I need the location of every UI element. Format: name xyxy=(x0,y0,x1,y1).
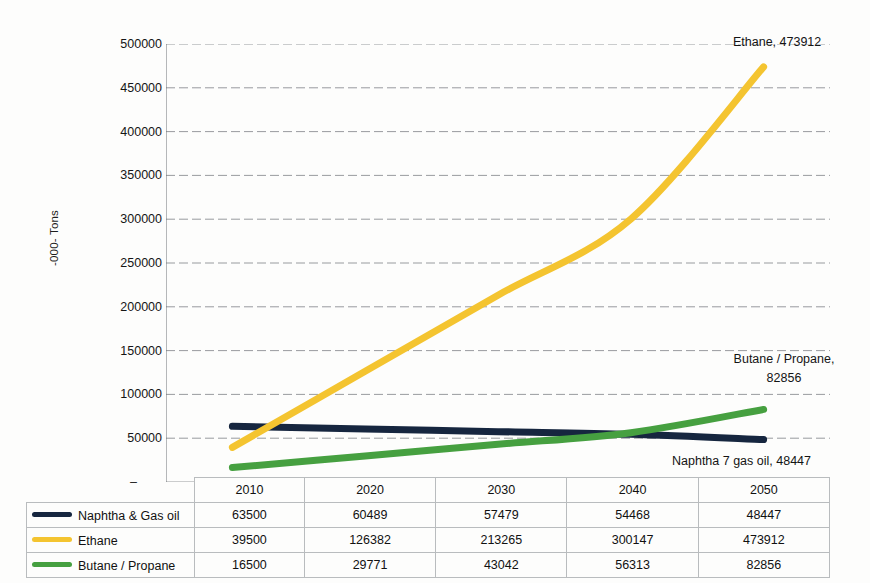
data-table-body: 20102020203020402050Naphtha & Gas oil635… xyxy=(27,478,830,578)
y-axis-tick-300000: 300000 xyxy=(92,212,162,226)
series-line-ethane xyxy=(232,67,763,448)
table-cell: 126382 xyxy=(304,528,435,553)
legend-swatch-icon xyxy=(32,512,72,517)
table-cell: 213265 xyxy=(436,528,567,553)
table-row: Butane / Propane165002977143042563138285… xyxy=(27,553,830,578)
series-line-naphtha-gas-oil xyxy=(232,426,763,439)
y-axis-tick-450000: 450000 xyxy=(92,81,162,95)
table-header-2030: 2030 xyxy=(436,478,567,503)
y-axis-tick-500000: 500000 xyxy=(92,37,162,51)
table-header-2020: 2020 xyxy=(304,478,435,503)
table-cell: 16500 xyxy=(195,553,305,578)
table-cell: 54468 xyxy=(567,503,698,528)
table-cell: 82856 xyxy=(698,553,829,578)
chart-lines-svg xyxy=(166,44,830,482)
data-table: 20102020203020402050Naphtha & Gas oil635… xyxy=(26,477,830,578)
legend-swatch-icon xyxy=(32,562,72,567)
legend-label: Butane / Propane xyxy=(78,558,175,572)
table-cell: 60489 xyxy=(304,503,435,528)
table-cell: 57479 xyxy=(436,503,567,528)
table-cell: 300147 xyxy=(567,528,698,553)
table-cell: 29771 xyxy=(304,553,435,578)
annotation-ethane: Ethane, 473912 xyxy=(733,33,821,52)
legend-label: Naphtha & Gas oil xyxy=(78,508,179,522)
annotation-naphtha: Naphtha 7 gas oil, 48447 xyxy=(672,452,811,471)
chart-figure: -000- Tons 50000045000040000035000030000… xyxy=(0,0,870,583)
table-cell: 43042 xyxy=(436,553,567,578)
annotation-butane-propane: Butane / Propane, 82856 xyxy=(709,350,859,389)
table-cell: 48447 xyxy=(698,503,829,528)
table-header-row: 20102020203020402050 xyxy=(27,478,830,503)
table-header-2010: 2010 xyxy=(195,478,305,503)
table-cell: 56313 xyxy=(567,553,698,578)
table-cell: 63500 xyxy=(195,503,305,528)
y-axis-tick-150000: 150000 xyxy=(92,344,162,358)
y-axis-tick-200000: 200000 xyxy=(92,300,162,314)
legend-entry: Ethane xyxy=(27,528,195,553)
y-axis-title: -000- Tons xyxy=(48,178,60,298)
table-cell: 473912 xyxy=(698,528,829,553)
table-header-2040: 2040 xyxy=(567,478,698,503)
legend-entry: Butane / Propane xyxy=(27,553,195,578)
table-row: Ethane39500126382213265300147473912 xyxy=(27,528,830,553)
y-axis-tick-350000: 350000 xyxy=(92,168,162,182)
y-axis-tick-400000: 400000 xyxy=(92,125,162,139)
y-axis-tick-50000: 50000 xyxy=(92,431,162,445)
table-cell: 39500 xyxy=(195,528,305,553)
table-header-2050: 2050 xyxy=(698,478,829,503)
y-axis-tick-100000: 100000 xyxy=(92,387,162,401)
legend-entry: Naphtha & Gas oil xyxy=(27,503,195,528)
y-axis-tick-250000: 250000 xyxy=(92,256,162,270)
legend-swatch-icon xyxy=(32,537,72,542)
table-row: Naphtha & Gas oil63500604895747954468484… xyxy=(27,503,830,528)
plot-area xyxy=(166,44,830,482)
legend-label: Ethane xyxy=(78,533,118,547)
table-header-corner xyxy=(27,478,195,503)
